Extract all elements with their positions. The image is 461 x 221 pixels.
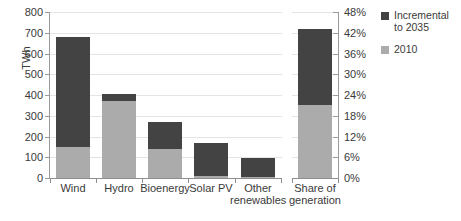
- bar-slot-bioenergy: [142, 12, 188, 178]
- bar-slot-wind: [50, 12, 96, 178]
- left-baseline: [50, 178, 282, 179]
- left-tick-800: 800: [10, 7, 43, 18]
- bar-bioenergy-incremental: [148, 122, 182, 149]
- bar-share-incremental: [298, 29, 332, 105]
- category-label-wind: Wind: [50, 182, 96, 194]
- right-plot-area: [292, 12, 338, 178]
- legend-label-2010: 2010: [394, 44, 417, 56]
- bar-slot-other-renewables: [235, 12, 281, 178]
- right-axis-line: [338, 12, 339, 178]
- chart-legend: Incremental to 2035 2010: [381, 10, 459, 67]
- bar-solar-pv-incremental: [194, 143, 228, 176]
- left-tick-0: 0: [10, 173, 43, 184]
- right-baseline: [292, 178, 338, 179]
- bar-bioenergy[interactable]: [148, 122, 182, 178]
- category-label-bioenergy: Bioenergy: [140, 182, 190, 194]
- right-tick-0: 0%: [344, 173, 378, 184]
- right-tick-18: 18%: [344, 111, 378, 122]
- right-tick-48: 48%: [344, 7, 378, 18]
- legend-swatch-2010-icon: [381, 46, 389, 54]
- other-renewables-line2: renewables: [230, 194, 286, 206]
- legend-item-incremental[interactable]: Incremental to 2035: [381, 10, 459, 33]
- legend-item-2010[interactable]: 2010: [381, 44, 459, 56]
- bar-other-renewables-incremental: [241, 158, 275, 177]
- bar-bioenergy-2010: [148, 149, 182, 178]
- left-tick-200: 200: [10, 132, 43, 143]
- bar-wind-2010: [56, 147, 90, 178]
- share-line2: generation: [289, 194, 341, 206]
- bar-slot-solar-pv: [188, 12, 234, 178]
- category-label-share-of-generation: Share of generation: [287, 182, 343, 206]
- bar-hydro[interactable]: [102, 94, 136, 178]
- stacked-column-chart: TWh 800 700 600 500 400 300 200 100 0 48…: [0, 0, 461, 221]
- category-label-hydro: Hydro: [96, 182, 142, 194]
- right-tick-24: 24%: [344, 90, 378, 101]
- right-tick-12: 12%: [344, 132, 378, 143]
- left-plot-area: [50, 12, 282, 178]
- other-renewables-line1: Other: [244, 182, 272, 194]
- left-tick-600: 600: [10, 49, 43, 60]
- bar-solar-pv-2010: [194, 176, 228, 178]
- bar-wind[interactable]: [56, 37, 90, 178]
- left-tick-300: 300: [10, 111, 43, 122]
- right-tick-42: 42%: [344, 28, 378, 39]
- right-tick-6: 6%: [344, 152, 378, 163]
- category-label-other-renewables: Other renewables: [230, 182, 286, 206]
- bar-slot-hydro: [96, 12, 142, 178]
- left-tick-400: 400: [10, 90, 43, 101]
- left-tick-700: 700: [10, 28, 43, 39]
- bar-hydro-incremental: [102, 94, 136, 101]
- legend-incremental-line1: Incremental: [394, 9, 449, 21]
- bar-hydro-2010: [102, 101, 136, 178]
- bar-slot-share-of-generation: [292, 12, 338, 178]
- bar-share-of-generation[interactable]: [298, 29, 332, 178]
- bar-other-renewables-2010: [241, 177, 275, 178]
- bar-wind-incremental: [56, 37, 90, 147]
- legend-label-incremental: Incremental to 2035: [394, 10, 449, 33]
- legend-incremental-line2: to 2035: [394, 21, 429, 33]
- category-label-solar-pv: Solar PV: [187, 182, 235, 194]
- right-tick-36: 36%: [344, 49, 378, 60]
- bar-solar-pv[interactable]: [194, 143, 228, 178]
- bar-other-renewables[interactable]: [241, 158, 275, 178]
- left-tick-100: 100: [10, 152, 43, 163]
- left-tick-500: 500: [10, 69, 43, 80]
- share-line1: Share of: [294, 182, 336, 194]
- legend-swatch-incremental-icon: [381, 12, 389, 20]
- right-tick-30: 30%: [344, 69, 378, 80]
- bar-share-2010: [298, 105, 332, 178]
